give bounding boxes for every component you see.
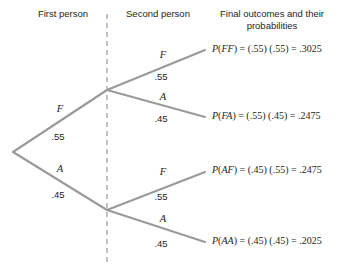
outcome-AA-factor1: .45	[251, 235, 264, 246]
outcome-FF-equals: = (	[237, 43, 251, 54]
outcome-expression-FA: P(FA) = (.55) (.45) = .2475	[212, 110, 320, 121]
outcome-AF-symbol: AF	[221, 164, 233, 175]
branch-label-second-FA-letter: A	[155, 91, 171, 102]
outcome-expression-AA: P(AA) = (.45) (.45) = .2025	[212, 235, 322, 246]
branch-first-A	[13, 152, 107, 210]
outcome-expression-AF: P(AF) = (.45) (.55) = .2475	[212, 164, 322, 175]
outcome-AA-end: ) =	[285, 235, 299, 246]
outcome-AF-factor2: .55	[273, 164, 286, 175]
outcome-FF-factor2: .55	[273, 43, 286, 54]
outcome-FF-symbol: FF	[221, 43, 233, 54]
branch-label-second-AF-probability: .55	[149, 191, 173, 202]
outcome-AA-symbol: AA	[221, 235, 233, 246]
branch-label-second-AF-letter: F	[155, 166, 171, 177]
outcome-AF-result: .2475	[299, 164, 322, 175]
outcome-AA-equals: = (	[237, 235, 251, 246]
branch-label-second-FF-letter: F	[155, 49, 171, 60]
branch-label-first-F-letter: F	[52, 103, 68, 114]
outcome-FA-end: ) =	[284, 110, 298, 121]
outcome-FA-factor2: .45	[271, 110, 284, 121]
branch-label-first-F-probability: .55	[46, 131, 70, 142]
branch-label-second-FA-probability: .45	[149, 113, 173, 124]
outcome-AF-end: ) =	[285, 164, 299, 175]
outcome-AA-mid: ) (	[264, 235, 273, 246]
outcome-FF-result: .3025	[299, 43, 322, 54]
outcome-FA-symbol: FA	[221, 110, 232, 121]
outcome-AF-equals: = (	[237, 164, 251, 175]
outcome-FA-mid: ) (	[262, 110, 271, 121]
outcome-FF-mid: ) (	[264, 43, 273, 54]
column-header-final-outcomes: Final outcomes and their probabilities	[206, 8, 338, 32]
column-header-first-person: First person	[20, 8, 106, 20]
branch-label-second-FF-probability: .55	[149, 71, 173, 82]
outcome-AA-factor2: .45	[273, 235, 286, 246]
outcome-FA-equals: = (	[236, 110, 250, 121]
branch-first-F	[13, 90, 107, 152]
outcome-AA-result: .2025	[299, 235, 322, 246]
outcome-FF-factor1: .55	[251, 43, 264, 54]
branch-label-second-AA-probability: .45	[149, 238, 173, 249]
column-header-second-person: Second person	[112, 8, 204, 20]
outcome-AF-mid: ) (	[264, 164, 273, 175]
branch-label-second-AA-letter: A	[155, 213, 171, 224]
branch-label-first-A-letter: A	[52, 163, 68, 174]
branch-label-first-A-probability: .45	[46, 189, 70, 200]
outcome-expression-FF: P(FF) = (.55) (.55) = .3025	[212, 43, 322, 54]
outcome-FA-result: .2475	[298, 110, 321, 121]
outcome-AF-factor1: .45	[251, 164, 264, 175]
outcome-FF-end: ) =	[285, 43, 299, 54]
outcome-FA-factor1: .55	[250, 110, 263, 121]
